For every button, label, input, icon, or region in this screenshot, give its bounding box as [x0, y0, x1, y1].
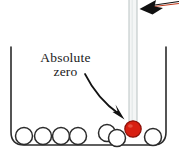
atom-circle	[109, 130, 126, 147]
diagram-canvas	[0, 0, 179, 164]
atom-circle	[16, 128, 33, 145]
pointer-arrowhead-glyph	[113, 105, 125, 120]
top-arrowhead-glyph	[140, 0, 164, 15]
atom-circle	[145, 129, 162, 146]
arrowhead-pointing-to-thermometer	[140, 0, 180, 15]
thermometer-bulb-highlight	[128, 124, 133, 128]
curved-arrow-to-bulb	[85, 74, 125, 120]
absolute-zero-label-line-1: Absolute	[0, 51, 131, 65]
absolute-zero-label-line-2: zero	[0, 65, 131, 79]
absolute-zero-diagram: Absolute zero	[0, 0, 179, 164]
thermometer-tube-highlight	[132, 0, 133, 124]
pointer-arrow-shaft	[85, 74, 119, 114]
atom-circle	[70, 128, 87, 145]
atom-circle	[35, 128, 52, 145]
atom-circle	[53, 128, 70, 145]
thermometer-bulb	[125, 121, 141, 137]
